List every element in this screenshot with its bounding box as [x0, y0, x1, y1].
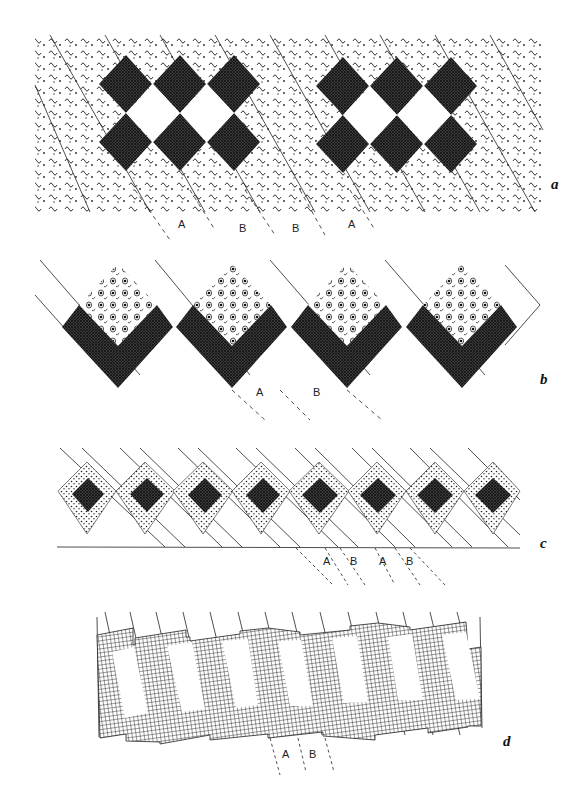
panel-c	[57, 448, 520, 585]
strip-label: B	[350, 555, 357, 567]
strip-label: A	[379, 555, 386, 567]
c-diamonds	[58, 462, 520, 534]
panel-a	[35, 35, 543, 240]
strip-label: A	[178, 218, 185, 230]
strip-label: A	[348, 218, 355, 230]
pattern-figure	[0, 0, 588, 809]
strip-label: A	[256, 386, 263, 398]
panel-b	[35, 260, 540, 420]
strip-label: B	[292, 222, 299, 234]
strip-label: B	[313, 386, 320, 398]
strip-label: B	[239, 222, 246, 234]
panel-d	[97, 612, 482, 775]
strip-label: A	[323, 555, 330, 567]
panel-label-a: a	[551, 176, 559, 193]
strip-label: A	[282, 748, 289, 760]
strip-label: B	[406, 555, 413, 567]
panel-label-c: c	[540, 535, 547, 552]
panel-label-b: b	[540, 371, 548, 388]
strip-label: B	[309, 748, 316, 760]
panel-label-d: d	[503, 733, 511, 750]
